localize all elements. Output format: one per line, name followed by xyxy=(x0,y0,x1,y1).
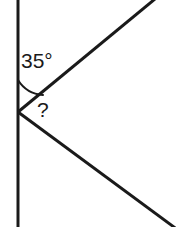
diagram-canvas xyxy=(0,0,176,227)
angle-diagram-figure: 35° ? xyxy=(0,0,176,227)
known-angle-label: 35° xyxy=(21,50,53,71)
lower-ray xyxy=(18,112,176,227)
unknown-angle-label: ? xyxy=(37,99,49,120)
